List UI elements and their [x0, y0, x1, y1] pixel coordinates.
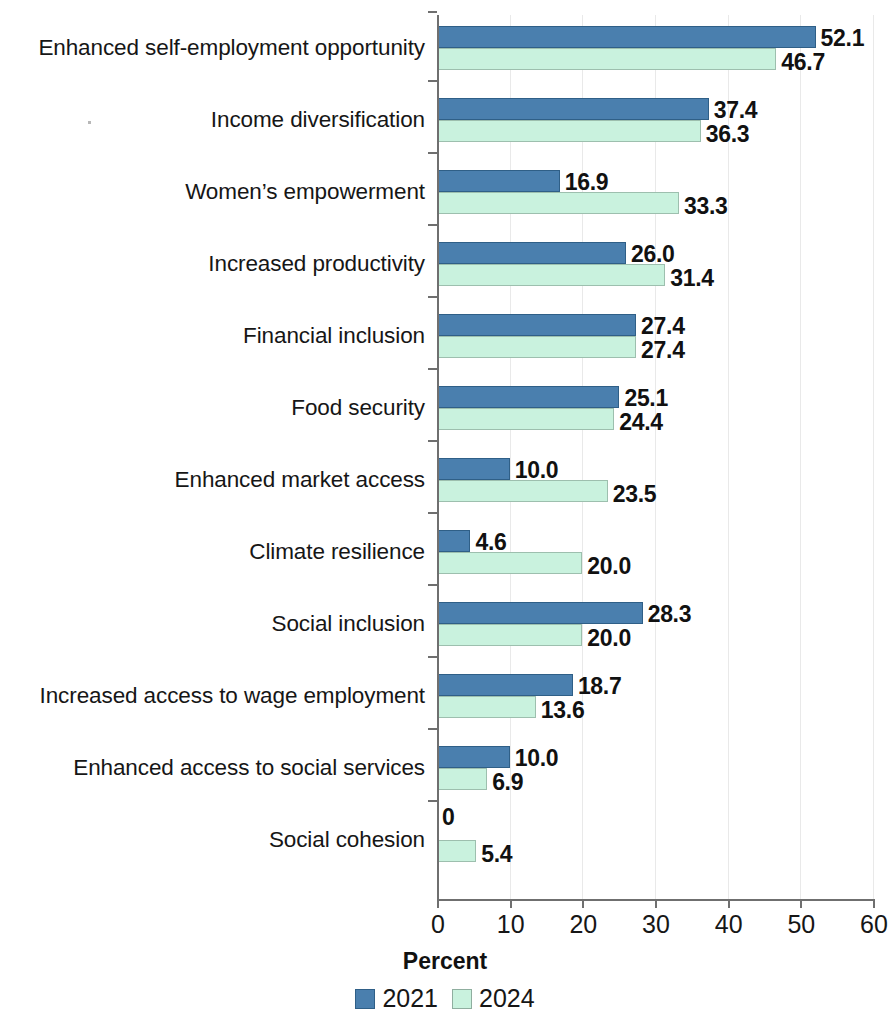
y-tick-mark	[428, 512, 437, 514]
gridline	[582, 15, 583, 900]
bar-2024	[437, 768, 487, 790]
y-tick-mark	[428, 800, 437, 802]
x-tick-label: 40	[715, 910, 743, 939]
bar-2021	[437, 98, 709, 120]
legend-label-2021: 2021	[382, 984, 438, 1013]
bar-value-label-2024: 23.5	[613, 481, 657, 508]
bar-2024	[437, 552, 582, 574]
x-tick-mark	[873, 899, 875, 908]
y-tick-mark	[428, 80, 437, 82]
plot-area: 52.146.737.436.316.933.326.031.427.427.4…	[437, 15, 873, 900]
bar-2024	[437, 48, 776, 70]
x-axis-title: Percent	[0, 948, 890, 975]
gridline	[510, 15, 511, 900]
bar-2021	[437, 746, 510, 768]
category-label: Income diversification	[0, 108, 425, 132]
x-tick-label: 0	[431, 910, 445, 939]
bar-value-label-2024: 13.6	[541, 697, 585, 724]
legend-swatch-2021-icon	[355, 989, 375, 1009]
x-tick-label: 20	[569, 910, 597, 939]
y-tick-mark	[428, 296, 437, 298]
category-label: Increased productivity	[0, 252, 425, 276]
y-axis-line	[437, 15, 439, 900]
y-tick-mark	[428, 728, 437, 730]
category-label: Social inclusion	[0, 612, 425, 636]
bar-2021	[437, 386, 619, 408]
category-label: Food security	[0, 396, 425, 420]
bar-value-label-2021: 18.7	[578, 673, 622, 700]
x-tick-mark	[437, 899, 439, 908]
category-label: Financial inclusion	[0, 324, 425, 348]
x-tick-label: 10	[497, 910, 525, 939]
category-label: Climate resilience	[0, 540, 425, 564]
bar-2024	[437, 624, 582, 646]
x-tick-mark	[510, 899, 512, 908]
bar-value-label-2024: 6.9	[492, 769, 523, 796]
bar-value-label-2021: 0	[442, 804, 455, 831]
bar-value-label-2024: 31.4	[670, 265, 714, 292]
bar-2024	[437, 264, 665, 286]
y-tick-mark	[428, 584, 437, 586]
y-tick-mark	[428, 368, 437, 370]
y-tick-mark	[428, 656, 437, 658]
category-label: Enhanced access to social services	[0, 756, 425, 780]
bar-value-label-2024: 5.4	[481, 841, 512, 868]
bar-2024	[437, 192, 679, 214]
bar-2021	[437, 530, 470, 552]
bar-2024	[437, 840, 476, 862]
bar-2024	[437, 480, 608, 502]
category-label: Women’s empowerment	[0, 180, 425, 204]
bar-2021	[437, 458, 510, 480]
gridline	[800, 15, 801, 900]
y-tick-mark	[428, 440, 437, 442]
legend-item-2021[interactable]: 2021	[355, 984, 438, 1013]
bar-value-label-2021: 27.4	[641, 313, 685, 340]
bar-2024	[437, 408, 614, 430]
bar-2024	[437, 336, 636, 358]
bar-value-label-2024: 27.4	[641, 337, 685, 364]
bar-value-label-2024: 36.3	[706, 121, 750, 148]
y-tick-mark	[428, 224, 437, 226]
bar-chart: 52.146.737.436.316.933.326.031.427.427.4…	[0, 0, 890, 1015]
category-label: Social cohesion	[0, 828, 425, 852]
gridline	[873, 15, 874, 900]
bar-2021	[437, 170, 560, 192]
x-tick-mark	[728, 899, 730, 908]
x-tick-label: 50	[787, 910, 815, 939]
x-tick-mark	[582, 899, 584, 908]
bar-value-label-2021: 25.1	[624, 385, 668, 412]
y-tick-mark	[428, 152, 437, 154]
legend-item-2024[interactable]: 2024	[452, 984, 535, 1013]
bar-2021	[437, 602, 643, 624]
bar-value-label-2024: 46.7	[781, 49, 825, 76]
bar-value-label-2024: 20.0	[587, 553, 631, 580]
category-label: Enhanced self-employment opportunity	[0, 36, 425, 60]
bar-2024	[437, 696, 536, 718]
bar-2021	[437, 242, 626, 264]
bar-value-label-2021: 10.0	[515, 745, 559, 772]
bar-value-label-2021: 52.1	[821, 25, 865, 52]
x-tick-mark	[655, 899, 657, 908]
y-tick-mark	[428, 11, 437, 13]
x-tick-label: 60	[860, 910, 888, 939]
bar-2021	[437, 26, 816, 48]
x-tick-mark	[800, 899, 802, 908]
category-label: Enhanced market access	[0, 468, 425, 492]
bar-value-label-2021: 28.3	[648, 601, 692, 628]
category-label: Increased access to wage employment	[0, 684, 425, 708]
bar-value-label-2021: 37.4	[714, 97, 758, 124]
x-tick-label: 30	[642, 910, 670, 939]
legend-swatch-2024-icon	[452, 989, 472, 1009]
bar-value-label-2024: 20.0	[587, 625, 631, 652]
bar-value-label-2024: 24.4	[619, 409, 663, 436]
bar-2021	[437, 674, 573, 696]
bar-2024	[437, 120, 701, 142]
bar-value-label-2024: 33.3	[684, 193, 728, 220]
legend-label-2024: 2024	[479, 984, 535, 1013]
gridline	[655, 15, 656, 900]
bar-2021	[437, 314, 636, 336]
chart-legend: 2021 2024	[0, 984, 890, 1013]
